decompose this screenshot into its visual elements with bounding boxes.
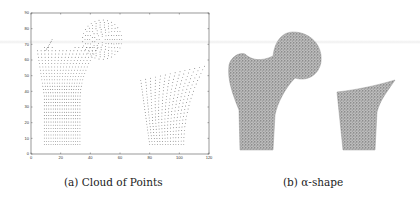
svg-text:10: 10 bbox=[25, 136, 30, 141]
svg-text:40: 40 bbox=[25, 89, 30, 94]
svg-text:120: 120 bbox=[206, 155, 213, 160]
svg-text:80: 80 bbox=[25, 26, 30, 31]
svg-text:60: 60 bbox=[25, 57, 30, 62]
scatter-plot: 0204060801001200102030405060708090 bbox=[0, 0, 215, 165]
svg-text:60: 60 bbox=[118, 155, 123, 160]
svg-text:80: 80 bbox=[147, 155, 152, 160]
caption-b: (b) α-shape bbox=[283, 176, 343, 188]
femur-alpha-shape bbox=[229, 32, 322, 150]
svg-text:50: 50 bbox=[25, 73, 30, 78]
svg-text:90: 90 bbox=[25, 10, 30, 15]
svg-text:70: 70 bbox=[25, 42, 30, 47]
point-cloud bbox=[37, 20, 205, 145]
panel-alpha-shape bbox=[215, 0, 420, 165]
svg-text:40: 40 bbox=[88, 155, 93, 160]
axis-ticks: 0204060801001200102030405060708090 bbox=[25, 10, 214, 160]
plot-frame bbox=[31, 13, 209, 154]
svg-text:0: 0 bbox=[30, 155, 33, 160]
svg-text:20: 20 bbox=[25, 120, 30, 125]
alpha-shape-surfaces bbox=[229, 32, 395, 150]
caption-a: (a) Cloud of Points bbox=[64, 176, 163, 188]
svg-text:100: 100 bbox=[176, 155, 183, 160]
panel-cloud-of-points: 0204060801001200102030405060708090 bbox=[0, 0, 215, 165]
svg-text:20: 20 bbox=[58, 155, 63, 160]
fragment-alpha-shape bbox=[337, 80, 395, 150]
alpha-shape-render bbox=[215, 0, 420, 165]
svg-text:30: 30 bbox=[25, 104, 30, 109]
